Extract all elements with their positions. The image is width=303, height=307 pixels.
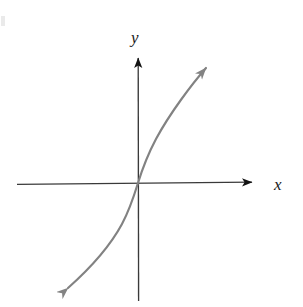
function-curve (68, 68, 206, 288)
x-axis (17, 182, 252, 184)
curve-path (68, 68, 206, 288)
x-axis-label: x (273, 175, 282, 194)
graph-figure: x y (0, 0, 303, 307)
y-axis-label: y (129, 28, 139, 47)
x-axis-line (17, 182, 252, 184)
coordinate-plane-svg: x y (0, 0, 303, 307)
